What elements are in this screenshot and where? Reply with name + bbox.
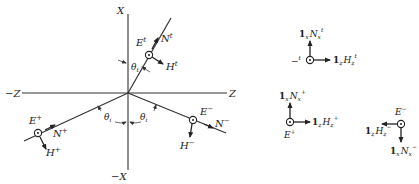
plane-wave-refraction-diagram: X −X Z −Z Et Nt Ht θt E+ [0, 0, 419, 184]
reflected-n-label: N− [214, 117, 230, 129]
coordinate-axes: X −X Z −Z [5, 5, 237, 182]
transmitted-h-label: Ht [165, 60, 178, 72]
incident-n-label: N+ [52, 127, 68, 139]
reflected-n-arrow [204, 124, 213, 128]
theta-t-arc [118, 60, 126, 63]
theta-i-reflected-label: θi [140, 112, 147, 123]
inset-minus-left-label: 1zHz− [365, 123, 392, 137]
z-axis-label: Z [228, 88, 237, 99]
inset-t-right-label: 1zHzt [333, 52, 357, 66]
transmitted-e-label: Et [135, 36, 146, 48]
inset-plus-right-label: 1zHz+ [312, 114, 339, 128]
incident-wave: E+ N+ H+ θi [24, 93, 128, 158]
theta-i-reflected-arc [154, 105, 156, 111]
incident-h-label: H+ [45, 146, 61, 158]
reflected-h-label: H− [179, 139, 195, 151]
inset-incident-triad: 1xNx+ 1zHz+ E+ [279, 88, 339, 140]
inset-minus-down-label: 1xNx− [390, 143, 417, 157]
transmitted-n-arrow [152, 38, 158, 49]
transmitted-h-arrow [152, 57, 163, 64]
reflected-wave: E− N− H− θi [128, 93, 230, 151]
reflected-h-arrow [190, 124, 192, 137]
transmitted-wave: Et Nt Ht θt [118, 18, 178, 93]
neg-z-axis-label: −Z [5, 88, 21, 99]
theta-i-incident-label: θi [104, 112, 111, 123]
theta-t-label: θt [131, 62, 139, 73]
x-axis-label: X [116, 5, 125, 16]
inset-reflected-triad: E− 1zHz− 1xNx− [365, 105, 417, 157]
inset-t-up-label: 1xNxt [299, 26, 324, 40]
reflected-e-label: E− [199, 105, 213, 117]
neg-x-axis-label: −X [111, 171, 127, 182]
inset-transmitted-triad: 1xNxt 1zHzt −t [291, 26, 357, 66]
inset-plus-e-label: E+ [283, 128, 296, 140]
transmitted-n-label: Nt [160, 32, 173, 44]
incident-e-label: E+ [28, 114, 42, 126]
inset-t-e-label: −t [291, 54, 302, 66]
inset-minus-e-label: E− [394, 105, 407, 117]
inset-plus-up-label: 1xNx+ [279, 88, 306, 102]
